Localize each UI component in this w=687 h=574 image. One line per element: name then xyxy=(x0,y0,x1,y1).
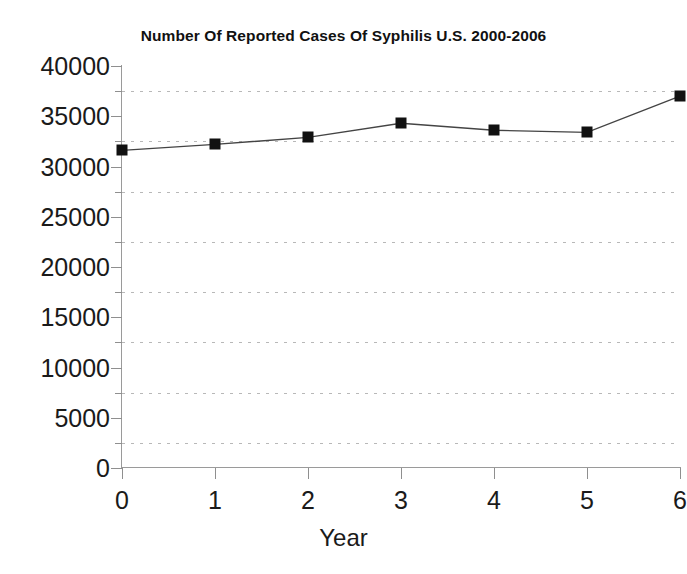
x-tick-major xyxy=(308,468,309,479)
data-point-marker xyxy=(303,132,314,143)
y-tick-minor xyxy=(115,292,122,293)
y-tick-label: 15000 xyxy=(40,305,110,330)
y-tick-label: 40000 xyxy=(40,54,110,79)
y-tick-minor xyxy=(115,342,122,343)
y-tick-major xyxy=(111,116,122,117)
x-tick-label: 3 xyxy=(394,488,408,513)
x-tick-label: 4 xyxy=(487,488,501,513)
data-point-marker xyxy=(489,125,500,136)
x-tick-label: 2 xyxy=(301,488,315,513)
y-tick-minor xyxy=(115,242,122,243)
x-tick-major xyxy=(401,468,402,479)
y-tick-major xyxy=(111,267,122,268)
y-tick-major xyxy=(111,217,122,218)
y-tick-minor xyxy=(115,393,122,394)
data-point-marker xyxy=(210,139,221,150)
y-tick-label: 20000 xyxy=(40,255,110,280)
y-tick-major xyxy=(111,418,122,419)
x-tick-major xyxy=(587,468,588,479)
y-tick-major xyxy=(111,468,122,469)
x-tick-label: 6 xyxy=(673,488,687,513)
y-tick-minor xyxy=(115,141,122,142)
y-tick-label: 5000 xyxy=(54,406,110,431)
data-point-marker xyxy=(582,127,593,138)
plot-area xyxy=(122,66,680,468)
y-tick-label: 10000 xyxy=(40,356,110,381)
y-tick-major xyxy=(111,317,122,318)
chart-container: Number Of Reported Cases Of Syphilis U.S… xyxy=(0,0,687,574)
x-tick-label: 5 xyxy=(580,488,594,513)
x-tick-major xyxy=(494,468,495,479)
chart-title: Number Of Reported Cases Of Syphilis U.S… xyxy=(0,27,687,45)
y-tick-label: 30000 xyxy=(40,155,110,180)
x-tick-label: 1 xyxy=(208,488,222,513)
y-tick-label: 0 xyxy=(96,456,110,481)
x-tick-major xyxy=(680,468,681,479)
x-tick-major xyxy=(215,468,216,479)
y-tick-major xyxy=(111,167,122,168)
y-tick-minor xyxy=(115,192,122,193)
y-tick-major xyxy=(111,368,122,369)
y-tick-minor xyxy=(115,91,122,92)
x-tick-major xyxy=(122,468,123,479)
x-axis-title: Year xyxy=(0,524,687,552)
x-tick-label: 0 xyxy=(115,488,129,513)
y-tick-major xyxy=(111,66,122,67)
y-tick-minor xyxy=(115,443,122,444)
y-tick-label: 25000 xyxy=(40,205,110,230)
data-point-marker xyxy=(117,145,128,156)
data-point-marker xyxy=(675,91,686,102)
y-tick-label: 35000 xyxy=(40,104,110,129)
data-point-marker xyxy=(396,118,407,129)
